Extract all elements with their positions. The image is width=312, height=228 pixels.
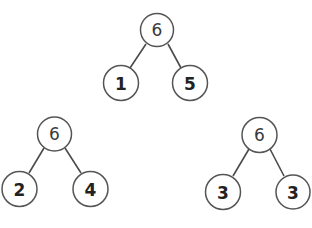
whole-node: 6	[242, 118, 277, 153]
part-node: 2	[2, 172, 37, 207]
whole-node: 6	[38, 117, 72, 151]
part-node: 5	[173, 66, 208, 101]
number-bond-1: 6 1 5	[104, 14, 208, 101]
edge	[65, 148, 81, 173]
part-value: 1	[115, 74, 127, 94]
part-node: 1	[104, 66, 139, 101]
part-value: 3	[287, 183, 299, 203]
part-value: 5	[184, 74, 196, 94]
part-node: 4	[73, 172, 108, 207]
part-value: 3	[217, 183, 229, 203]
edge	[233, 149, 249, 176]
part-value: 4	[85, 180, 97, 200]
whole-value: 6	[254, 125, 265, 145]
number-bond-diagram: 6 1 5 6 2 4 6	[0, 0, 312, 228]
part-value: 2	[14, 180, 26, 200]
part-node: 3	[276, 175, 310, 209]
edge	[130, 44, 146, 68]
whole-value: 6	[49, 124, 60, 144]
edge	[168, 44, 181, 68]
edge	[29, 148, 44, 173]
whole-node: 6	[141, 14, 174, 47]
number-bond-2: 6 2 4	[2, 117, 108, 207]
whole-value: 6	[152, 20, 163, 40]
number-bond-3: 6 3 3	[206, 118, 311, 210]
edge	[270, 149, 284, 176]
part-node: 3	[206, 175, 241, 210]
